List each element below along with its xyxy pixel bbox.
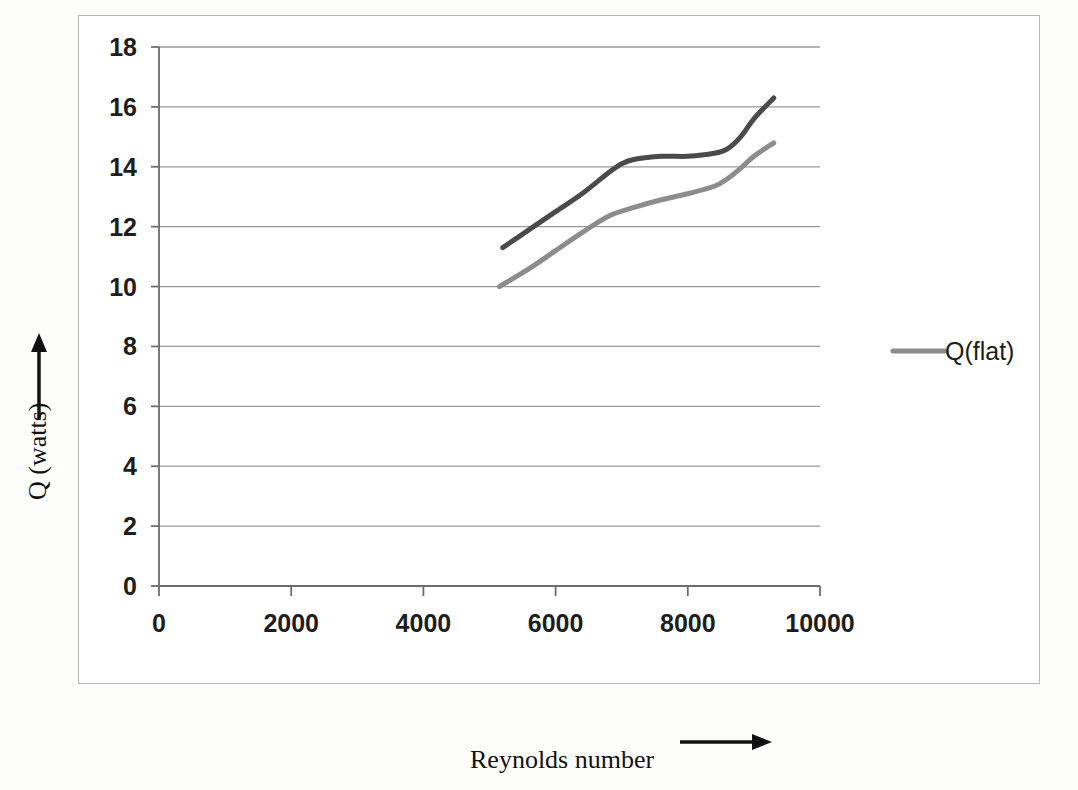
y-axis-title-group: Q (watts) [23,333,52,500]
y-tick-labels-group: 024681012141618 [109,33,137,600]
y-tick-label-18: 18 [109,33,137,61]
scanned-page: 024681012141618 0200040006000800010000 Q… [0,0,1078,790]
y-tick-label-0: 0 [123,572,137,600]
chart-legend: Q(flat) [893,337,1014,365]
x-tick-label-2000: 2000 [263,609,319,637]
x-axis-title: Reynolds number [470,745,654,774]
x-tick-label-8000: 8000 [660,609,716,637]
y-tick-label-16: 16 [109,93,137,121]
x-tick-labels-group: 0200040006000800010000 [152,609,855,637]
data-series-group [499,98,773,287]
series-line-qflat [499,143,773,287]
y-tick-label-4: 4 [123,452,137,480]
x-tick-label-6000: 6000 [528,609,584,637]
x-axis-title-group: Reynolds number [470,734,772,774]
y-tick-marks-group [151,47,159,586]
y-tick-label-14: 14 [109,153,137,181]
x-tick-label-4000: 4000 [396,609,452,637]
x-axis-right-arrow-icon [680,734,772,750]
y-tick-label-10: 10 [109,273,137,301]
legend-label-q-flat: Q(flat) [945,337,1014,365]
y-tick-label-2: 2 [123,512,137,540]
gridlines-group [159,47,820,526]
chart-canvas: 024681012141618 0200040006000800010000 Q… [0,0,1078,790]
y-tick-label-8: 8 [123,332,137,360]
x-tick-marks-group [159,586,820,596]
x-tick-label-0: 0 [152,609,166,637]
x-tick-label-10000: 10000 [785,609,855,637]
y-tick-label-12: 12 [109,213,137,241]
y-tick-label-6: 6 [123,392,137,420]
